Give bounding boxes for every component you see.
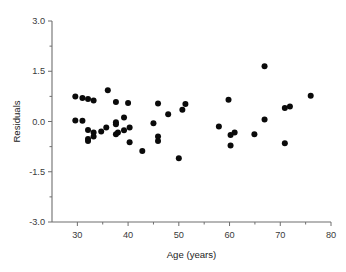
- x-tick-label: 40: [123, 230, 133, 240]
- y-tick-label: 0.0: [32, 117, 45, 127]
- data-point: [127, 125, 133, 131]
- data-point: [176, 155, 182, 161]
- data-point: [165, 111, 171, 117]
- data-point: [113, 121, 119, 127]
- y-axis-title: Residuals: [11, 100, 22, 142]
- x-tick-label: 30: [72, 230, 82, 240]
- data-point: [113, 99, 119, 105]
- data-point: [72, 118, 78, 124]
- x-axis-ticks: [77, 222, 331, 226]
- x-tick-label: 60: [224, 230, 234, 240]
- data-point: [91, 97, 97, 103]
- data-point: [232, 130, 238, 136]
- scatter-plot-figure: -3.0-1.50.01.53.0 304050607080 Residuals…: [0, 0, 346, 272]
- data-point: [121, 114, 127, 120]
- data-point: [179, 107, 185, 113]
- y-tick-label: -1.5: [29, 167, 45, 177]
- data-point: [79, 118, 85, 124]
- data-point: [85, 127, 91, 133]
- data-point: [121, 127, 127, 133]
- data-point: [85, 138, 91, 144]
- x-tick-label: 70: [275, 230, 285, 240]
- data-point: [150, 120, 156, 126]
- data-point: [72, 93, 78, 99]
- data-point: [127, 139, 133, 145]
- x-tick-label: 80: [326, 230, 336, 240]
- data-point: [155, 100, 161, 106]
- x-axis-tick-labels: 304050607080: [72, 230, 336, 240]
- data-point: [98, 129, 104, 135]
- data-point: [262, 116, 268, 122]
- data-point: [182, 101, 188, 107]
- data-point: [85, 96, 91, 102]
- y-axis-ticks: [48, 21, 52, 222]
- chart-canvas: -3.0-1.50.01.53.0 304050607080 Residuals…: [0, 0, 346, 272]
- data-point: [287, 103, 293, 109]
- data-point: [216, 124, 222, 130]
- data-point: [115, 130, 121, 136]
- y-tick-label: 3.0: [32, 16, 45, 26]
- data-point: [125, 100, 131, 106]
- data-point: [308, 93, 314, 99]
- axes-group: [52, 21, 331, 222]
- data-point: [105, 87, 111, 93]
- data-points-group: [72, 63, 313, 161]
- data-point: [139, 148, 145, 154]
- data-point: [282, 140, 288, 146]
- data-point: [79, 95, 85, 101]
- x-axis-title: Age (years): [167, 249, 217, 260]
- y-tick-label: -3.0: [29, 217, 45, 227]
- y-tick-label: 1.5: [32, 66, 45, 76]
- data-point: [262, 63, 268, 69]
- data-point: [91, 134, 97, 140]
- data-point: [251, 131, 257, 137]
- data-point: [155, 138, 161, 144]
- x-tick-label: 50: [174, 230, 184, 240]
- y-axis-tick-labels: -3.0-1.50.01.53.0: [29, 16, 45, 227]
- data-point: [226, 97, 232, 103]
- data-point: [228, 143, 234, 149]
- data-point: [103, 125, 109, 131]
